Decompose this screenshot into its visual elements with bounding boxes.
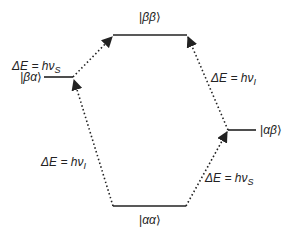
transition-ab-bb-label: ΔE = hνI xyxy=(210,71,256,87)
level-ab-label: |αβ⟩ xyxy=(260,123,282,137)
transition-ba-bb-arrow xyxy=(73,37,112,77)
transition-aa-ab-arrow xyxy=(186,132,227,206)
transition-aa-ba-arrow xyxy=(74,80,113,206)
transition-aa-ba-label: ΔE = hνI xyxy=(40,155,86,171)
level-bb-label: |ββ⟩ xyxy=(139,10,161,24)
level-aa-label: |αα⟩ xyxy=(139,213,161,227)
transition-ba-bb-label: ΔE = hνS xyxy=(11,59,60,75)
transition-aa-ab-label: ΔE = hνS xyxy=(204,171,253,187)
energy-level-diagram: |ββ⟩ |βα⟩ |αβ⟩ |αα⟩ ΔE = hνS ΔE = hνI ΔE… xyxy=(0,0,296,239)
